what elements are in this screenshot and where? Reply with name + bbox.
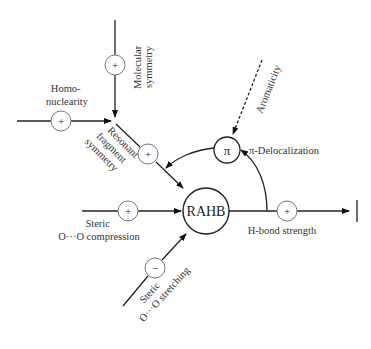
pi-symbol: π — [224, 143, 231, 158]
resonant-fragment-label: Resonant fragment symmetry — [83, 119, 143, 179]
rahb-diagram: + Molecular symmetry + Homo- nuclearity … — [0, 0, 371, 349]
steric-stretching-path: − Steric O···O stretching — [123, 234, 192, 324]
sign-label: + — [284, 205, 290, 217]
pi-delocalization-label: π-Delocalization — [249, 145, 320, 156]
sign-label: + — [145, 148, 151, 160]
homonuclearity-path: + Homo- nuclearity — [17, 83, 111, 131]
rahb-node: RAHB — [183, 188, 229, 234]
hbond-strength-path: + H-bond strength — [229, 200, 357, 236]
steric-compression-path: + Steric O···O compression — [58, 201, 181, 242]
sign-label: + — [112, 59, 118, 71]
homonuclearity-label: Homo- nuclearity — [46, 83, 89, 107]
sign-label: + — [125, 205, 131, 217]
molecular-symmetry-path: + Molecular symmetry — [105, 20, 154, 117]
sign-label: + — [58, 115, 64, 127]
feedback-arrow-from-pi — [166, 148, 214, 168]
hbond-strength-label: H-bond strength — [248, 225, 317, 236]
rahb-label: RAHB — [187, 204, 226, 219]
steric-compression-label: Steric O···O compression — [58, 218, 140, 242]
aromaticity-path: Aromaticity — [233, 60, 283, 134]
feedback-arrow-to-pi — [241, 150, 267, 211]
sign-label: − — [152, 262, 158, 274]
molecular-symmetry-label: Molecular symmetry — [132, 43, 154, 89]
pi-delocalization-node: π π-Delocalization — [214, 137, 320, 163]
resonant-fragment-path: + Resonant fragment symmetry — [83, 119, 183, 188]
